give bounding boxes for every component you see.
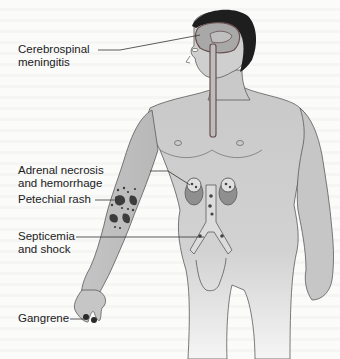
leader-line-meningitis (98, 35, 200, 50)
label-line: and hemorrhage (18, 177, 104, 190)
label-petechial-rash: Petechial rash (18, 193, 91, 206)
label-line: meningitis (18, 56, 90, 69)
label-line: Cerebrospinal (18, 43, 90, 56)
head (186, 10, 256, 78)
label-gangrene: Gangrene (18, 312, 69, 325)
torso (148, 88, 310, 359)
label-adrenal-necrosis: Adrenal necrosis and hemorrhage (18, 164, 104, 190)
label-septicemia-shock: Septicemia and shock (18, 230, 75, 256)
label-line: Petechial rash (18, 193, 91, 206)
spinal-cord (210, 44, 216, 137)
label-line: Gangrene (18, 312, 69, 325)
label-line: and shock (18, 243, 75, 256)
label-line: Adrenal necrosis (18, 164, 104, 177)
label-line: Septicemia (18, 230, 75, 243)
label-cerebrospinal-meningitis: Cerebrospinal meningitis (18, 43, 90, 69)
